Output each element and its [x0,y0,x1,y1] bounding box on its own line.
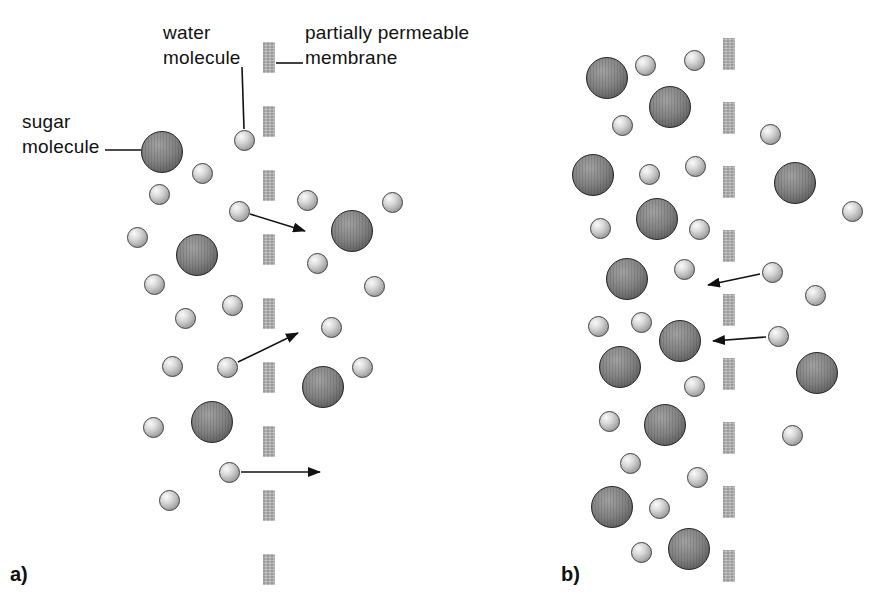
caption-b: b) [561,563,580,586]
water-molecule [143,417,164,438]
water-molecule [639,164,660,185]
water-molecule-label-line1: water [163,20,241,45]
water-molecule [192,163,213,184]
membrane-dash-a [263,42,275,73]
water-molecule [684,376,705,397]
water-molecule [782,425,803,446]
sugar-molecule [644,404,686,446]
water-molecule [674,259,695,280]
water-molecule [649,498,670,519]
water-molecule [149,184,170,205]
sugar-molecule [649,86,691,128]
water-molecule [364,276,385,297]
sugar-molecule [599,346,641,388]
membrane-dash-a [263,106,275,137]
sugar-molecule [668,528,710,570]
sugar-molecule [572,154,614,196]
water-molecule [684,50,705,71]
sugar-molecule [176,234,218,276]
water-molecule [689,219,710,240]
membrane-dash-a [263,170,275,201]
sugar-molecule [586,57,628,99]
membrane-dash-b [723,550,735,582]
membrane-dash-b [723,294,735,326]
water-molecule [768,326,789,347]
membrane-label-line2: membrane [305,45,469,70]
water-molecule [842,201,863,222]
water-molecule [685,156,706,177]
membrane-dash-b [723,166,735,198]
sugar-molecule [659,320,701,362]
water-molecule [234,130,255,151]
sugar-molecule-label-line2: molecule [22,134,100,159]
water-molecule [687,467,708,488]
water-molecule [222,295,243,316]
water-molecule [635,55,656,76]
water-molecule-label: water molecule [163,20,241,70]
water-molecule [217,357,238,378]
water-molecule [127,227,148,248]
water-molecule [307,253,328,274]
sugar-molecule-label-line1: sugar [22,109,100,134]
sugar-molecule [796,352,838,394]
membrane-dash-a [263,554,275,585]
water-molecule [321,317,342,338]
sugar-molecule [331,210,373,252]
water-molecule [229,201,250,222]
membrane-dash-b [723,422,735,454]
water-molecule [352,357,373,378]
membrane-dash-a [263,298,275,329]
membrane-dash-a [263,362,275,393]
water-molecule [382,192,403,213]
water-molecule [588,316,609,337]
membrane-label-line1: partially permeable [305,20,469,45]
water-molecule [159,490,180,511]
water-molecule [162,356,183,377]
sugar-molecule [191,401,233,443]
water-molecule [219,462,240,483]
water-molecule [599,411,620,432]
osmosis-figure: water molecule partially permeable membr… [0,0,876,609]
water-molecule [612,115,633,136]
water-molecule [620,453,641,474]
water-molecule [144,274,165,295]
membrane-label: partially permeable membrane [305,20,469,70]
water-molecule [631,542,652,563]
water-molecule [760,124,781,145]
water-molecule [805,285,826,306]
membrane-dash-b [723,38,735,70]
caption-a: a) [10,563,28,586]
water-molecule-label-line2: molecule [163,45,241,70]
sugar-molecule [302,366,344,408]
water-molecule [175,308,196,329]
membrane-dash-b [723,230,735,262]
membrane-dash-a [263,234,275,265]
sugar-molecule [636,198,678,240]
sugar-molecule [606,258,648,300]
membrane-dash-a [263,426,275,457]
membrane-dash-a [263,490,275,521]
sugar-molecule [774,162,816,204]
water-molecule [762,262,783,283]
membrane-dash-b [723,102,735,134]
water-molecule [631,312,652,333]
sugar-molecule [591,486,633,528]
membrane-dash-b [723,358,735,390]
sugar-molecule-label: sugar molecule [22,109,100,159]
water-molecule [297,190,318,211]
water-molecule [590,218,611,239]
membrane-dash-b [723,486,735,518]
osmosis-diagram [0,0,876,609]
sugar-molecule [141,131,183,173]
